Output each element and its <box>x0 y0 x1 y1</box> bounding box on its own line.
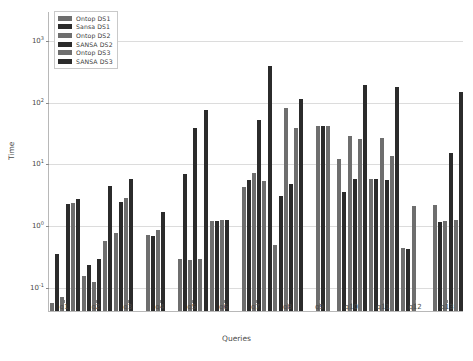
y-tick-label: 10-1 <box>30 284 44 292</box>
x-tick-label-q11: q11 <box>377 303 390 311</box>
legend-item-4[interactable]: Ontop DS3 <box>58 48 113 57</box>
bar <box>342 192 346 311</box>
y-gridline <box>49 103 463 104</box>
bar <box>193 128 197 311</box>
y-axis-title: Time <box>7 142 16 160</box>
legend-swatch-icon <box>58 33 72 38</box>
bar <box>247 180 251 311</box>
bar <box>348 136 352 311</box>
bar-chart: Time 10-1100101102103 Queries Ontop DS1S… <box>0 0 473 361</box>
bar <box>449 153 453 311</box>
bar <box>129 179 133 311</box>
bar <box>406 249 410 311</box>
bar <box>268 66 272 311</box>
bar <box>363 85 367 311</box>
bar <box>279 196 283 311</box>
bar <box>257 120 261 311</box>
legend-swatch-icon <box>58 59 72 64</box>
bar <box>210 221 214 311</box>
legend-item-1[interactable]: Sansa DS1 <box>58 23 113 32</box>
legend-label: Sansa DS1 <box>76 23 110 30</box>
bar <box>438 222 442 311</box>
x-tick-label-q6: q6 <box>219 303 228 311</box>
y-tick-label: 100 <box>32 222 44 230</box>
bar <box>454 220 458 311</box>
bar <box>215 221 219 311</box>
x-tick-label-q9: q9 <box>315 303 324 311</box>
legend-label: Ontop DS1 <box>76 15 110 22</box>
bar <box>198 259 202 311</box>
bar <box>443 221 447 311</box>
bar <box>76 199 80 311</box>
bar <box>114 233 118 311</box>
bar <box>337 159 341 311</box>
x-tick-label-q4: q4 <box>155 303 164 311</box>
legend-label: Ontop DS2 <box>76 32 110 39</box>
legend-item-2[interactable]: Ontop DS2 <box>58 31 113 40</box>
y-tick-mark <box>46 41 49 42</box>
bar <box>252 173 256 311</box>
bar <box>433 205 437 311</box>
bar <box>369 179 373 311</box>
x-tick-label-q3: q3 <box>123 303 132 311</box>
bar <box>289 184 293 311</box>
x-tick-label-q12: q12 <box>408 303 421 311</box>
legend-swatch-icon <box>58 24 72 29</box>
bar <box>156 230 160 311</box>
bar <box>183 174 187 311</box>
bar <box>161 212 165 311</box>
y-tick-mark <box>46 103 49 104</box>
bar <box>358 139 362 311</box>
bar <box>119 202 123 311</box>
bar <box>50 303 54 312</box>
x-tick-label-q1: q1 <box>60 303 69 311</box>
x-tick-label-q7: q7 <box>251 303 260 311</box>
x-axis-title: Queries <box>0 334 473 343</box>
bar <box>262 181 266 311</box>
chart-legend: Ontop DS1Sansa DS1Ontop DS2SANSA DS2Onto… <box>54 11 118 69</box>
legend-swatch-icon <box>58 16 72 21</box>
x-tick-label-q2: q2 <box>91 303 100 311</box>
bar <box>82 276 86 311</box>
bar <box>374 179 378 311</box>
x-tick-label-q8: q8 <box>283 303 292 311</box>
bar <box>273 245 277 311</box>
legend-item-0[interactable]: Ontop DS1 <box>58 14 113 23</box>
legend-item-5[interactable]: SANSA DS3 <box>58 57 113 66</box>
y-tick-label: 102 <box>32 99 44 107</box>
bar <box>380 138 384 311</box>
bar <box>412 206 416 311</box>
bar <box>321 126 325 311</box>
bar <box>401 248 405 311</box>
bar <box>151 236 155 311</box>
bar <box>294 128 298 311</box>
x-tick-label-q5: q5 <box>187 303 196 311</box>
y-tick-label: 103 <box>32 37 44 45</box>
bar <box>316 126 320 311</box>
bar <box>242 187 246 311</box>
bar <box>390 156 394 311</box>
legend-swatch-icon <box>58 50 72 55</box>
x-tick-label-q10: q10 <box>345 303 358 311</box>
y-gridline <box>49 164 463 165</box>
bar <box>299 99 303 311</box>
bar <box>66 204 70 311</box>
x-tick-label-q13: q13 <box>440 303 453 311</box>
bar <box>385 180 389 311</box>
legend-label: SANSA DS2 <box>76 41 113 48</box>
y-tick-label: 101 <box>32 160 44 168</box>
bar <box>103 241 107 311</box>
legend-swatch-icon <box>58 42 72 47</box>
bar <box>108 186 112 311</box>
bar <box>284 108 288 311</box>
legend-label: Ontop DS3 <box>76 49 110 56</box>
y-tick-mark <box>46 226 49 227</box>
y-tick-mark <box>46 288 49 289</box>
legend-label: SANSA DS3 <box>76 58 113 65</box>
y-tick-mark <box>46 164 49 165</box>
legend-item-3[interactable]: SANSA DS2 <box>58 40 113 49</box>
bar <box>178 259 182 311</box>
bar <box>225 220 229 311</box>
bar <box>204 110 208 311</box>
bar <box>459 92 463 311</box>
